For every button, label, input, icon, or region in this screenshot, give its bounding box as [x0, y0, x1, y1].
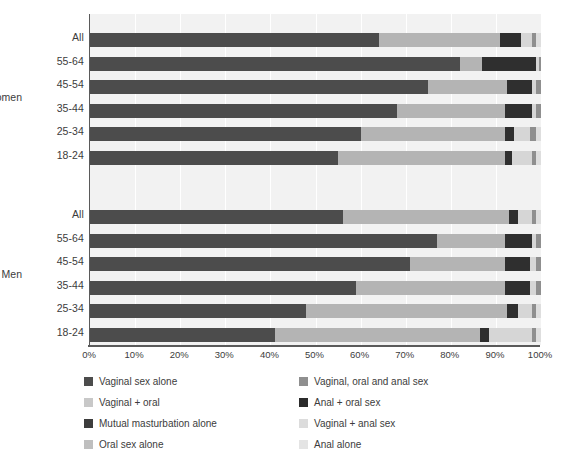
legend-label: Vaginal, oral and anal sex	[314, 376, 428, 387]
bar-segment	[536, 80, 541, 94]
legend-label: Anal alone	[314, 439, 361, 450]
legend-swatch-icon	[84, 419, 93, 428]
bar-row	[90, 281, 541, 295]
legend-swatch-icon	[299, 377, 308, 386]
category-label: 45-54	[26, 78, 84, 90]
bar-row	[90, 234, 541, 248]
bar-segment	[505, 281, 530, 295]
legend-label: Vaginal + oral	[99, 397, 160, 408]
bar-segment	[500, 33, 520, 47]
bar-segment	[509, 210, 518, 224]
bar-segment	[536, 257, 541, 271]
bar-segment	[482, 57, 536, 71]
legend-swatch-icon	[299, 419, 308, 428]
x-tick-label: 70%	[395, 349, 414, 360]
bar-segment	[356, 281, 505, 295]
category-axis-labels: All55-6445-5435-4425-3418-24All55-6445-5…	[22, 14, 84, 345]
bar-segment	[521, 33, 532, 47]
bar-segment	[90, 151, 338, 165]
legend-swatch-icon	[84, 377, 93, 386]
x-axis-tick-labels: 0%10%20%30%40%50%60%70%80%90%100%	[89, 349, 540, 365]
bar-segment	[536, 127, 541, 141]
bar-segment	[90, 80, 428, 94]
bar-row	[90, 33, 541, 47]
stacked-bar-chart: WomenMen All55-6445-5435-4425-3418-24All…	[0, 0, 571, 471]
x-tick-label: 10%	[125, 349, 144, 360]
bar-segment	[536, 234, 541, 248]
legend-item[interactable]: Mutual masturbation alone	[84, 418, 217, 429]
bar-segment	[536, 33, 541, 47]
bar-segment	[518, 304, 532, 318]
bar-segment	[90, 281, 356, 295]
bar-segment	[530, 127, 537, 141]
category-label: 55-64	[26, 55, 84, 67]
bar-row	[90, 304, 541, 318]
group-label: Men	[0, 268, 22, 280]
group-axis-labels: WomenMen	[0, 14, 22, 345]
category-label: 18-24	[26, 326, 84, 338]
category-label: 45-54	[26, 255, 84, 267]
category-label: 25-34	[26, 125, 84, 137]
bar-segment	[536, 151, 541, 165]
legend-swatch-icon	[84, 398, 93, 407]
legend-swatch-icon	[299, 398, 308, 407]
bar-row	[90, 151, 541, 165]
bar-segment	[505, 257, 530, 271]
bar-segment	[536, 304, 541, 318]
bar-segment	[343, 210, 510, 224]
bar-segment	[489, 328, 532, 342]
bar-segment	[536, 328, 541, 342]
bar-row	[90, 210, 541, 224]
bar-segment	[90, 234, 437, 248]
legend-item[interactable]: Vaginal + anal sex	[299, 418, 395, 429]
gridline	[541, 14, 542, 345]
bar-segment	[505, 127, 514, 141]
x-tick-label: 30%	[215, 349, 234, 360]
category-label: 35-44	[26, 102, 84, 114]
plot-area	[89, 14, 541, 345]
x-tick-label: 50%	[305, 349, 324, 360]
bar-segment	[90, 257, 410, 271]
bar-row	[90, 127, 541, 141]
bar-row	[90, 57, 541, 71]
legend-item[interactable]: Vaginal, oral and anal sex	[299, 376, 428, 387]
bar-segment	[460, 57, 483, 71]
category-label: 35-44	[26, 279, 84, 291]
bar-segment	[505, 234, 532, 248]
x-axis-line	[88, 345, 540, 347]
x-tick-label: 80%	[440, 349, 459, 360]
legend-item[interactable]: Oral sex alone	[84, 439, 163, 450]
bar-segment	[361, 127, 505, 141]
bar-segment	[275, 328, 480, 342]
legend-item[interactable]: Vaginal + oral	[84, 397, 160, 408]
bar-segment	[536, 281, 541, 295]
bar-segment	[306, 304, 507, 318]
bar-segment	[536, 210, 541, 224]
legend-item[interactable]: Vaginal sex alone	[84, 376, 177, 387]
bar-segment	[90, 328, 275, 342]
category-label: 55-64	[26, 232, 84, 244]
legend-label: Anal + oral sex	[314, 397, 380, 408]
bar-segment	[90, 304, 306, 318]
legend-item[interactable]: Anal alone	[299, 439, 361, 450]
bar-segment	[512, 151, 532, 165]
bar-segment	[437, 234, 505, 248]
bar-row	[90, 257, 541, 271]
x-tick-label: 100%	[528, 349, 552, 360]
bar-segment	[505, 151, 512, 165]
x-tick-label: 60%	[350, 349, 369, 360]
bar-segment	[379, 33, 501, 47]
category-label: 25-34	[26, 302, 84, 314]
bar-segment	[505, 104, 532, 118]
legend-swatch-icon	[299, 440, 308, 449]
bar-segment	[397, 104, 505, 118]
bar-segment	[507, 80, 532, 94]
x-tick-label: 90%	[485, 349, 504, 360]
group-label: Women	[0, 91, 22, 103]
bar-segment	[90, 33, 379, 47]
bar-segment	[90, 57, 460, 71]
bar-segment	[507, 304, 518, 318]
legend-item[interactable]: Anal + oral sex	[299, 397, 380, 408]
bar-segment	[410, 257, 505, 271]
bar-segment	[539, 57, 541, 71]
